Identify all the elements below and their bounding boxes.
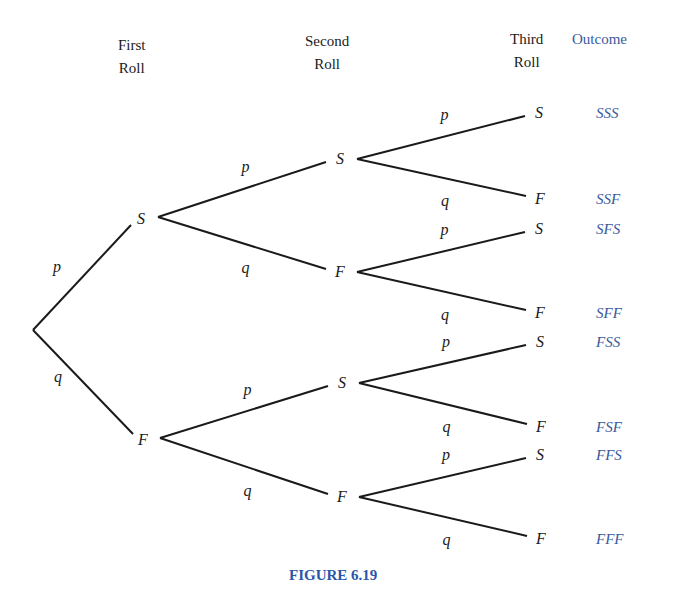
outcome-FSS: FSS xyxy=(596,334,620,351)
node-level3-F: F xyxy=(535,190,545,208)
outcome-SSS: SSS xyxy=(596,105,619,122)
branch-label-p: p xyxy=(441,106,449,124)
branch-label-p: p xyxy=(441,221,449,239)
branch-label-p: p xyxy=(442,446,450,464)
node-level1-S: S xyxy=(137,210,145,228)
outcome-SFF: SFF xyxy=(596,305,622,322)
branch-label-q: q xyxy=(443,418,451,436)
tree-diagram xyxy=(0,0,674,600)
node-level1-F: F xyxy=(138,431,148,449)
branch-label-p: p xyxy=(53,258,61,276)
branch-label-p: p xyxy=(244,381,252,399)
branch-label-q: q xyxy=(244,482,252,500)
outcome-SFS: SFS xyxy=(596,221,620,238)
branch-line xyxy=(357,159,526,196)
outcome-FFF: FFF xyxy=(596,531,624,548)
branch-label-q: q xyxy=(54,368,62,386)
branch-label-q: q xyxy=(441,192,449,210)
branch-label-p: p xyxy=(242,158,250,176)
node-level3-F: F xyxy=(535,304,545,322)
branch-label-q: q xyxy=(242,259,250,277)
branch-line xyxy=(359,345,526,383)
node-level2-F: F xyxy=(337,488,347,506)
branch-label-p: p xyxy=(442,333,450,351)
node-level2-S: S xyxy=(338,374,346,392)
node-level3-S: S xyxy=(536,446,544,464)
node-level3-F: F xyxy=(536,530,546,548)
tree-edges xyxy=(33,116,527,536)
branch-label-q: q xyxy=(443,531,451,549)
node-level3-S: S xyxy=(535,104,543,122)
node-level3-S: S xyxy=(535,220,543,238)
node-level3-F: F xyxy=(536,418,546,436)
branch-line xyxy=(357,272,526,310)
outcome-SSF: SSF xyxy=(596,191,620,208)
branch-line xyxy=(33,225,131,330)
node-level2-F: F xyxy=(335,263,345,281)
node-level3-S: S xyxy=(536,333,544,351)
outcome-FFS: FFS xyxy=(596,447,622,464)
branch-line xyxy=(33,330,133,434)
branch-label-q: q xyxy=(441,306,449,324)
outcome-FSF: FSF xyxy=(596,419,622,436)
node-level2-S: S xyxy=(336,150,344,168)
figure-caption: FIGURE 6.19 xyxy=(289,567,377,584)
